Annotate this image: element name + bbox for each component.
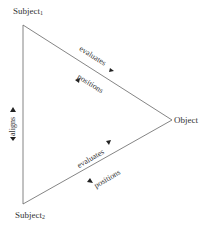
arrow-icon [10, 137, 16, 141]
edge-label-aligns: aligns [9, 117, 17, 136]
node-subject1: Subject1 [13, 7, 43, 16]
node-subject2: Subject2 [15, 211, 45, 220]
triangle-diagram: Subject1 Object Subject2 evaluates posit… [0, 0, 208, 226]
arrow-icon [10, 107, 16, 112]
node-object: Object [174, 116, 198, 125]
arrow-icon [109, 68, 114, 72]
triangle-lines [0, 0, 208, 226]
arrow-icon [106, 140, 111, 145]
